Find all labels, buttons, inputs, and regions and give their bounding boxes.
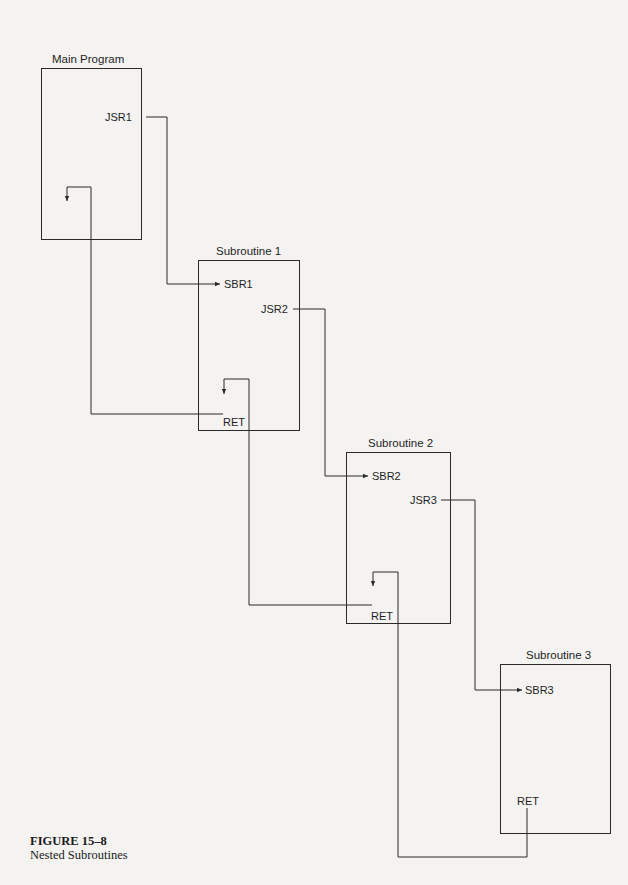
jsr2-label: JSR2 <box>261 304 288 315</box>
subroutine-2-title: Subroutine 2 <box>368 438 433 450</box>
subroutine-3-title: Subroutine 3 <box>526 650 591 662</box>
subroutine-1-title: Subroutine 1 <box>216 246 281 258</box>
sbr3-label: SBR3 <box>525 685 554 696</box>
return-arrow-sub2-sub1 <box>224 379 372 605</box>
sub2-ret-label: RET <box>371 611 393 622</box>
call-arrow-jsr1-sbr1 <box>146 117 220 284</box>
sub1-ret-label: RET <box>223 417 245 428</box>
figure-caption: FIGURE 15–8 Nested Subroutines <box>30 834 128 863</box>
jsr1-label: JSR1 <box>105 112 132 123</box>
main-program-title: Main Program <box>52 54 124 66</box>
nested-subroutines-diagram <box>0 0 628 885</box>
return-arrow-sub1-main <box>67 187 223 414</box>
sbr1-label: SBR1 <box>224 279 253 290</box>
call-arrow-jsr2-sbr2 <box>293 309 368 476</box>
figure-title: Nested Subroutines <box>30 848 128 862</box>
sub3-ret-label: RET <box>517 796 539 807</box>
call-arrow-jsr3-sbr3 <box>441 500 522 690</box>
figure-number: FIGURE 15–8 <box>30 834 128 848</box>
jsr3-label: JSR3 <box>410 495 437 506</box>
sbr2-label: SBR2 <box>372 471 401 482</box>
